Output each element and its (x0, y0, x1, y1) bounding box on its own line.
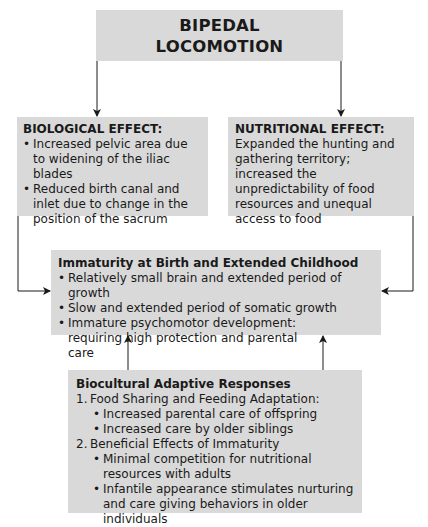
biological-bullet: • Increased pelvic area due to widening … (23, 137, 202, 182)
title-line-1: BIPEDAL (96, 15, 343, 36)
bullet-icon: • (58, 301, 65, 316)
bullet-icon: • (93, 482, 100, 497)
bullet-icon: • (23, 182, 30, 197)
biocultural-sub-bullet: • Increased care by older siblings (76, 422, 354, 437)
biocultural-heading: Biocultural Adaptive Responses (76, 377, 354, 392)
bullet-icon: • (93, 407, 100, 422)
immaturity-bullet-text: Relatively small brain and extended peri… (68, 271, 341, 300)
biological-bullet-text: Reduced birth canal and inlet due to cha… (33, 182, 188, 226)
bullet-icon: • (93, 422, 100, 437)
immaturity-box: Immaturity at Birth and Extended Childho… (51, 250, 381, 335)
item-label: Food Sharing and Feeding Adaptation: (90, 392, 320, 406)
item-number: 1. (76, 392, 87, 407)
immaturity-bullet: • Slow and extended period of somatic gr… (58, 301, 374, 316)
item-number: 2. (76, 437, 87, 452)
biocultural-responses-box: Biocultural Adaptive Responses 1. Food S… (68, 370, 362, 513)
immaturity-heading: Immaturity at Birth and Extended Childho… (58, 256, 374, 271)
immaturity-bullet-text: Immature psychomotor development: requir… (68, 316, 297, 360)
arrow-nutritional-to-immaturity (382, 216, 413, 291)
title-line-2: LOCOMOTION (96, 36, 343, 57)
sub-bullet-text: Increased care by older siblings (103, 422, 293, 436)
sub-bullet-text: Increased parental care of offspring (103, 407, 317, 421)
bullet-icon: • (58, 316, 65, 331)
immaturity-bullet: • Relatively small brain and extended pe… (58, 271, 374, 301)
immaturity-bullet: • Immature psychomotor development: requ… (58, 316, 303, 361)
biocultural-item: 2. Beneficial Effects of Immaturity (76, 437, 354, 452)
biological-bullet: • Reduced birth canal and inlet due to c… (23, 182, 202, 227)
biological-bullet-text: Increased pelvic area due to widening of… (33, 137, 188, 181)
biological-effect-heading: BIOLOGICAL EFFECT: (23, 122, 202, 137)
arrow-biological-to-immaturity (18, 216, 50, 291)
bipedal-locomotion-box: BIPEDAL LOCOMOTION (96, 10, 343, 61)
immaturity-bullet-text: Slow and extended period of somatic grow… (68, 301, 337, 315)
biocultural-sub-bullet: • Increased parental care of offspring (76, 407, 354, 422)
biocultural-item: 1. Food Sharing and Feeding Adaptation: (76, 392, 354, 407)
sub-bullet-text: Infantile appearance stimulates nurturin… (103, 482, 353, 526)
nutritional-effect-text: Expanded the hunting and gathering terri… (235, 137, 407, 227)
biocultural-sub-bullet: • Infantile appearance stimulates nurtur… (76, 482, 354, 527)
biological-effect-box: BIOLOGICAL EFFECT: • Increased pelvic ar… (17, 117, 208, 216)
bullet-icon: • (58, 271, 65, 286)
bullet-icon: • (93, 452, 100, 467)
bullet-icon: • (23, 137, 30, 152)
nutritional-effect-box: NUTRITIONAL EFFECT: Expanded the hunting… (228, 117, 414, 216)
biocultural-sub-bullet: • Minimal competition for nutritional re… (76, 452, 354, 482)
nutritional-effect-heading: NUTRITIONAL EFFECT: (235, 122, 407, 137)
item-label: Beneficial Effects of Immaturity (90, 437, 279, 451)
sub-bullet-text: Minimal competition for nutritional reso… (103, 452, 311, 481)
